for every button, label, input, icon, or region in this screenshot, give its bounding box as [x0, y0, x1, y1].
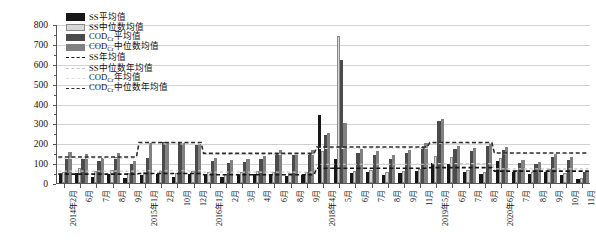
x-tick-mark: [194, 184, 195, 188]
x-tick-mark: [469, 184, 470, 188]
legend-item[interactable]: SS平均值: [66, 12, 168, 22]
x-tick-label: 2020年6月: [504, 190, 515, 226]
y-tick-label: 400: [34, 100, 48, 110]
x-tick-mark: [404, 184, 405, 188]
x-tick-label: 8月: [294, 190, 305, 202]
x-tick-label: 8月: [116, 190, 127, 202]
bar: [505, 147, 508, 183]
bar-group: [528, 25, 541, 183]
x-tick-mark: [355, 184, 356, 188]
bar: [489, 143, 492, 183]
bar: [263, 156, 266, 183]
x-tick-label: 6月: [83, 190, 94, 202]
bar: [182, 143, 185, 183]
x-tick-mark: [258, 184, 259, 188]
bar-group: [220, 25, 233, 183]
bar: [279, 150, 282, 183]
x-tick-label: 12月: [197, 190, 208, 206]
bar: [117, 153, 120, 183]
bar: [408, 150, 411, 183]
x-tick-label: 7月: [520, 190, 531, 202]
bar-group: [479, 25, 492, 183]
x-tick-mark: [388, 184, 389, 188]
bar-group: [366, 25, 379, 183]
x-tick-label: 7月: [375, 190, 386, 202]
bar-group: [301, 25, 314, 183]
bar-group: [544, 25, 557, 183]
x-tick-mark: [161, 184, 162, 188]
bar: [133, 161, 136, 183]
bar: [586, 171, 589, 183]
x-tick-label: 7月: [472, 190, 483, 202]
x-tick-mark: [242, 184, 243, 188]
y-tick-label: 500: [34, 80, 48, 90]
bar-group: [398, 25, 411, 183]
bar: [327, 133, 330, 183]
x-tick-mark: [113, 184, 114, 188]
legend-swatch: [66, 44, 85, 52]
bar-group: [415, 25, 428, 183]
x-tick-mark: [501, 184, 502, 188]
legend-swatch: [66, 24, 85, 32]
bar: [457, 146, 460, 183]
x-tick-mark: [485, 184, 486, 188]
bar-group: [253, 25, 266, 183]
x-tick-mark: [80, 184, 81, 188]
bar-group: [237, 25, 250, 183]
bar: [343, 123, 346, 183]
x-tick-mark: [339, 184, 340, 188]
x-tick-label: 9月: [407, 190, 418, 202]
y-tick-label: 600: [34, 60, 48, 70]
bar: [198, 144, 201, 183]
bar: [554, 154, 557, 183]
legend-item[interactable]: CODCr中位数年均值: [66, 83, 168, 93]
bar: [295, 153, 298, 183]
x-tick-label: 6月: [456, 190, 467, 202]
bar: [230, 160, 233, 183]
x-tick-label: 5月: [342, 190, 353, 202]
bar-group: [188, 25, 201, 183]
bar-group: [350, 25, 363, 183]
x-tick-label: 2016年1月: [213, 190, 224, 226]
x-tick-mark: [566, 184, 567, 188]
bar: [214, 158, 217, 183]
x-tick-label: 2月: [229, 190, 240, 202]
bar: [68, 152, 71, 183]
x-tick-label: 8月: [488, 190, 499, 202]
bar-group: [431, 25, 444, 183]
bar: [473, 148, 476, 183]
y-tick-label: 800: [34, 20, 48, 30]
bar-group: [512, 25, 525, 183]
bar: [392, 155, 395, 183]
x-tick-label: 9月: [553, 190, 564, 202]
x-tick-label: 8月: [391, 190, 402, 202]
x-tick-mark: [145, 184, 146, 188]
legend-label: SS年均值: [89, 53, 126, 62]
x-tick-mark: [96, 184, 97, 188]
x-tick-label: 6月: [359, 190, 370, 202]
bar-group: [172, 25, 185, 183]
x-tick-label: 2019年5月: [439, 190, 450, 226]
bar: [85, 154, 88, 183]
x-tick-label: 3月: [245, 190, 256, 202]
legend-item[interactable]: SS年均值: [66, 53, 168, 63]
x-tick-label: 2月: [164, 190, 175, 202]
x-tick-mark: [291, 184, 292, 188]
legend-swatch: [66, 13, 85, 21]
bar: [424, 143, 427, 183]
x-tick-mark: [533, 184, 534, 188]
x-tick-mark: [129, 184, 130, 188]
x-tick-mark: [307, 184, 308, 188]
y-tick-label: 300: [34, 119, 48, 129]
x-tick-mark: [274, 184, 275, 188]
x-tick-mark: [372, 184, 373, 188]
x-tick-label: 6月: [278, 190, 289, 202]
x-tick-label: 11月: [423, 190, 434, 206]
bar: [149, 143, 152, 183]
y-tick-label: 700: [34, 40, 48, 50]
x-tick-label: 4月: [261, 190, 272, 202]
bar-group: [496, 25, 509, 183]
bar-group: [285, 25, 298, 183]
x-tick-label: 11月: [585, 190, 596, 206]
x-tick-label: 7月: [100, 190, 111, 202]
